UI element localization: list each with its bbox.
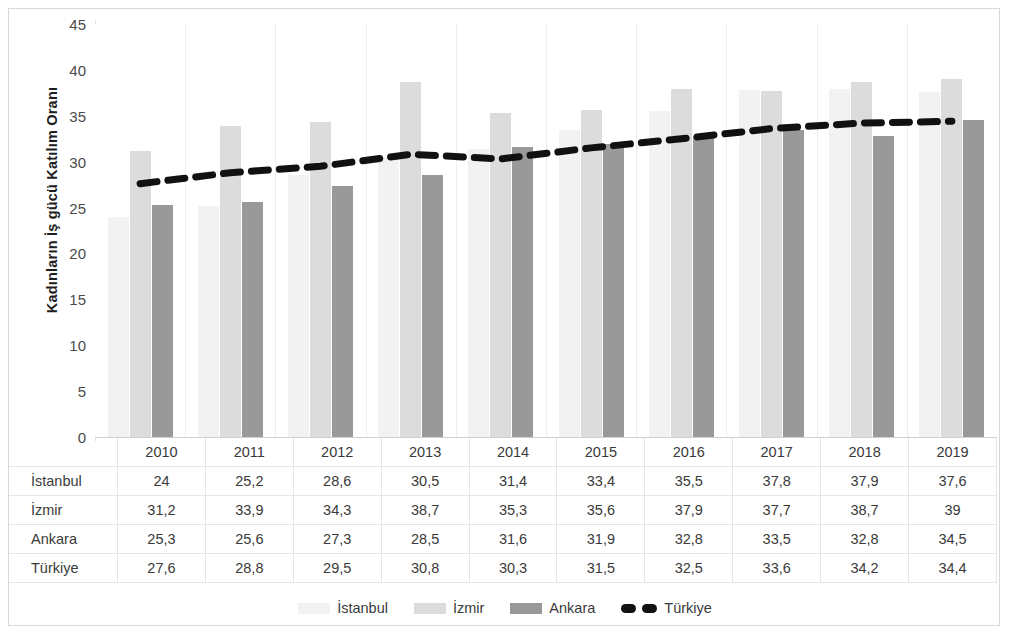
y-axis-tick-5: 5 [46,383,86,400]
bar-istanbul-2012 [288,175,309,437]
table-cell: 35,5 [645,467,733,496]
table-cell: 30,8 [381,554,469,583]
bar-swatch-ankara-icon [510,603,542,614]
table-cell: 34,4 [909,554,997,583]
table-cell: 28,6 [293,467,381,496]
table-cell: 38,7 [821,496,909,525]
plot-area [95,24,997,437]
table-cell: 25,3 [118,525,206,554]
table-cell: 32,8 [821,525,909,554]
y-axis-tick-10: 10 [46,337,86,354]
table-cell: 30,5 [381,467,469,496]
bar-istanbul-2019 [919,92,940,437]
table-row: İzmir31,233,934,338,735,335,637,937,738,… [9,496,997,525]
table-cell: 31,6 [469,525,557,554]
table-cell: 30,3 [469,554,557,583]
legend-label: Türkiye [664,600,712,616]
bar-istanbul-2018 [829,89,850,437]
table-cell: 32,5 [645,554,733,583]
bar-izmir-2014 [490,113,511,437]
table-row: İstanbul2425,228,630,531,433,435,537,837… [9,467,997,496]
bar-ankara-2013 [422,175,443,437]
category-separator [907,24,908,437]
y-axis-tick-15: 15 [46,291,86,308]
table-cell: 37,8 [733,467,821,496]
table-header-row: 2010201120122013201420152016201720182019 [9,438,997,467]
table-cell: 31,4 [469,467,557,496]
bar-ankara-2018 [873,136,894,437]
table-corner-cell [9,438,118,467]
table-row: Türkiye27,628,829,530,830,331,532,533,63… [9,554,997,583]
bar-izmir-2018 [851,82,872,437]
table-column-header-2019: 2019 [909,438,997,467]
category-separator [185,24,186,437]
bar-izmir-2019 [941,79,962,437]
bar-ankara-2010 [152,205,173,437]
table-cell: 35,6 [557,496,645,525]
bar-ankara-2019 [963,120,984,437]
table-row: Ankara25,325,627,328,531,631,932,833,532… [9,525,997,554]
table-cell: 29,5 [293,554,381,583]
bar-ankara-2014 [512,147,533,437]
category-separator [275,24,276,437]
table-cell: 37,9 [821,467,909,496]
bar-izmir-2010 [130,151,151,437]
category-separator [366,24,367,437]
table-cell: 25,2 [205,467,293,496]
y-axis-tick-30: 30 [46,153,86,170]
bar-ankara-2015 [603,144,624,437]
bar-ankara-2012 [332,186,353,437]
table-cell: 28,8 [205,554,293,583]
y-axis-tick-45: 45 [46,16,86,33]
table-cell: 31,2 [118,496,206,525]
table-cell: 38,7 [381,496,469,525]
table-column-header-2011: 2011 [205,438,293,467]
dashed-line-icon [621,604,657,613]
table-column-header-2012: 2012 [293,438,381,467]
bar-istanbul-2013 [378,157,399,437]
legend-item-türkiye[interactable]: Türkiye [621,600,712,616]
table-row-label: Türkiye [9,554,118,583]
table-cell: 33,5 [733,525,821,554]
legend-item-i̇zmir[interactable]: İzmir [414,600,484,616]
table-cell: 37,7 [733,496,821,525]
table-cell: 28,5 [381,525,469,554]
table-cell: 34,2 [821,554,909,583]
legend-item-i̇stanbul[interactable]: İstanbul [298,600,388,616]
table-cell: 33,9 [205,496,293,525]
legend-item-ankara[interactable]: Ankara [510,600,595,616]
legend-label: Ankara [549,600,595,616]
table-row-label: İzmir [9,496,118,525]
table-row-label: İstanbul [9,467,118,496]
y-axis-tick-20: 20 [46,245,86,262]
bar-izmir-2017 [761,91,782,437]
table-column-header-2018: 2018 [821,438,909,467]
table-cell: 27,6 [118,554,206,583]
bar-ankara-2017 [783,130,804,437]
table-cell: 35,3 [469,496,557,525]
bar-izmir-2013 [400,82,421,437]
table-column-header-2015: 2015 [557,438,645,467]
category-separator [726,24,727,437]
table-cell: 34,3 [293,496,381,525]
bar-swatch-istanbul-icon [298,603,330,614]
bar-istanbul-2016 [649,111,670,437]
table-column-header-2010: 2010 [118,438,206,467]
table-column-header-2016: 2016 [645,438,733,467]
bar-istanbul-2015 [559,130,580,437]
table-cell: 37,9 [645,496,733,525]
table-cell: 33,4 [557,467,645,496]
y-axis-tick-35: 35 [46,107,86,124]
table-cell: 31,9 [557,525,645,554]
table-column-header-2014: 2014 [469,438,557,467]
y-axis-tick-25: 25 [46,199,86,216]
bar-istanbul-2014 [468,149,489,437]
category-separator [546,24,547,437]
table-column-header-2013: 2013 [381,438,469,467]
table-cell: 37,6 [909,467,997,496]
table-cell: 31,5 [557,554,645,583]
bar-swatch-izmir-icon [414,603,446,614]
table-cell: 32,8 [645,525,733,554]
table-cell: 24 [118,467,206,496]
bar-ankara-2011 [242,202,263,437]
